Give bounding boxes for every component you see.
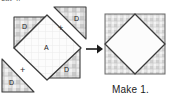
make-caption: Make 1. [112,84,149,95]
loose-triangle-bottom-left: D [2,59,34,92]
top-cut-text: cut 4. [1,0,21,3]
plus-sign-bottom: + [20,65,25,75]
label-a-center: A [44,44,49,51]
label-d-top-right: D [74,15,79,22]
right-arrow-icon [86,45,103,54]
label-d-bottom-right: D [64,66,69,73]
label-d-bottom-left: D [9,79,14,86]
plus-sign-top: + [58,23,63,33]
label-d-top-left: D [22,23,27,30]
finished-block [105,14,165,74]
diagram-canvas: cut 4. [0,0,169,101]
